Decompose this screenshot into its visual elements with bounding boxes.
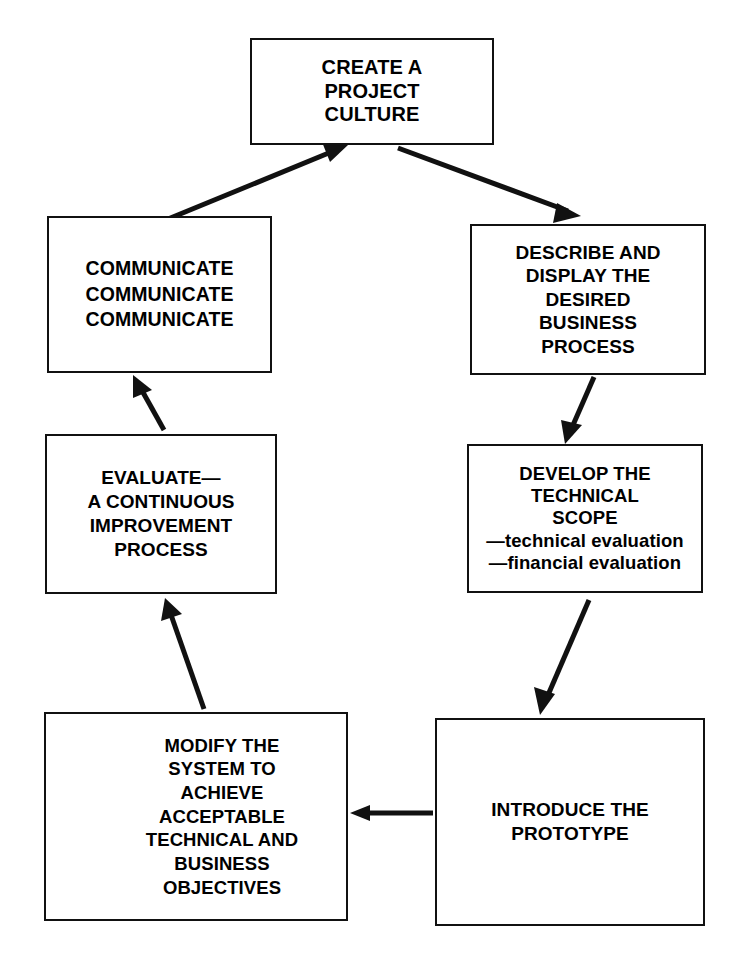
- node-communicate: COMMUNICATE COMMUNICATE COMMUNICATE: [47, 216, 272, 373]
- node-develop-the-technical-scope: DEVELOP THE TECHNICAL SCOPE —technical e…: [467, 444, 703, 593]
- node-evaluate-label: EVALUATE— A CONTINUOUS IMPROVEMENT PROCE…: [87, 466, 234, 562]
- node-evaluate-a-continuous-improvement-process: EVALUATE— A CONTINUOUS IMPROVEMENT PROCE…: [45, 434, 277, 594]
- arrow-create-to-describe: [398, 148, 581, 223]
- arrow-introduce-to-modify: [350, 805, 433, 821]
- node-modify-the-system: MODIFY THE SYSTEM TO ACHIEVE ACCEPTABLE …: [44, 712, 348, 921]
- node-introduce-label: INTRODUCE THE PROTOTYPE: [491, 798, 649, 846]
- arrow-develop-to-introduce: [534, 600, 589, 715]
- node-develop-label: DEVELOP THE TECHNICAL SCOPE —technical e…: [486, 463, 683, 574]
- node-create-a-project-culture: CREATE A PROJECT CULTURE: [250, 38, 494, 145]
- arrow-evaluate-to-communicate: [133, 375, 164, 430]
- node-create-a-project-culture-label: CREATE A PROJECT CULTURE: [322, 56, 423, 127]
- node-modify-label: MODIFY THE SYSTEM TO ACHIEVE ACCEPTABLE …: [94, 734, 298, 900]
- node-communicate-label: COMMUNICATE COMMUNICATE COMMUNICATE: [85, 256, 233, 332]
- node-introduce-the-prototype: INTRODUCE THE PROTOTYPE: [435, 718, 705, 926]
- node-describe-and-display-the-desired-business-process: DESCRIBE AND DISPLAY THE DESIRED BUSINES…: [470, 224, 706, 375]
- diagram-canvas: CREATE A PROJECT CULTURE COMMUNICATE COM…: [0, 0, 745, 967]
- arrow-communicate-to-create: [168, 142, 348, 219]
- arrow-modify-to-evaluate: [161, 598, 204, 709]
- arrow-describe-to-develop: [561, 377, 594, 444]
- node-describe-label: DESCRIBE AND DISPLAY THE DESIRED BUSINES…: [515, 241, 660, 359]
